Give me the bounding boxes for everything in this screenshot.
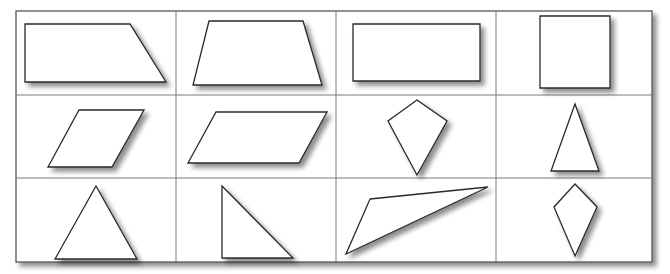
shape-grid-diagram [0, 0, 670, 274]
isosceles-trapezoid-shape [193, 21, 322, 85]
rectangle-shape [353, 24, 480, 81]
square-shape [540, 16, 610, 88]
